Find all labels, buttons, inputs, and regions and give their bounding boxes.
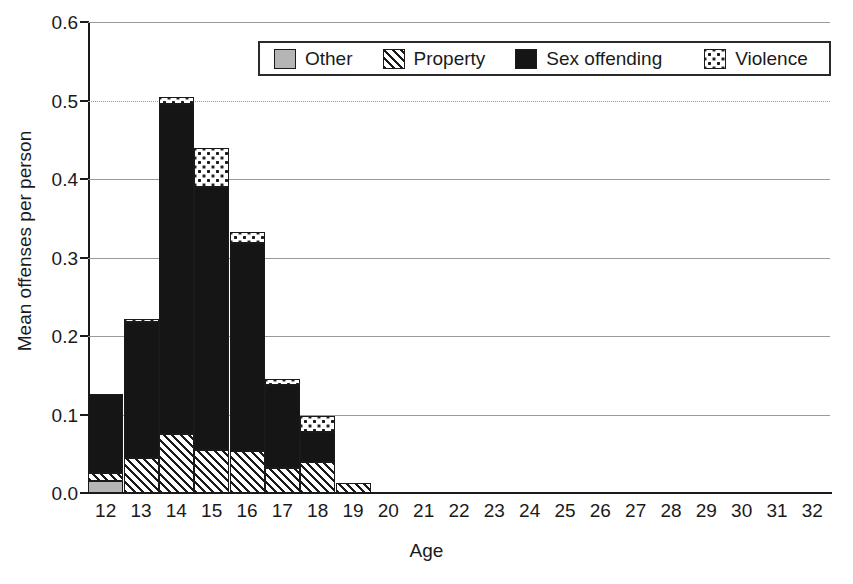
- legend-item-other: Other: [274, 43, 353, 74]
- bar-stack: [300, 416, 335, 493]
- bar-stack: [265, 379, 300, 493]
- bar-segment: [230, 451, 265, 493]
- x-axis-label: Age: [0, 540, 853, 562]
- bar-segment: [300, 416, 335, 432]
- bar-stack: [124, 319, 159, 493]
- x-axis-tick-label: 26: [580, 500, 620, 522]
- x-axis-tick-label: 20: [368, 500, 408, 522]
- y-axis-tick-label: 0.4: [32, 170, 78, 189]
- legend-item-property: Property: [383, 43, 486, 74]
- x-axis-tick-label: 12: [86, 500, 126, 522]
- x-axis-tick-label: 14: [156, 500, 196, 522]
- bar-segment: [194, 148, 229, 187]
- bar-segment: [230, 232, 265, 244]
- x-axis-tick-label: 29: [686, 500, 726, 522]
- x-axis-tick-label: 16: [227, 500, 267, 522]
- legend-item-sex-offending: Sex offending: [515, 43, 662, 74]
- x-axis-tick-label: 19: [333, 500, 373, 522]
- bar-segment: [194, 187, 229, 450]
- bar-segment: [88, 481, 123, 493]
- bar-segment: [265, 385, 300, 468]
- bar-segment: [159, 104, 194, 434]
- x-axis-tick-label: 25: [545, 500, 585, 522]
- legend-swatch-property-icon: [383, 49, 405, 69]
- bar-stack: [336, 483, 371, 493]
- legend-label-violence: Violence: [735, 48, 808, 70]
- bar-segment: [124, 319, 159, 322]
- x-axis-tick-label: 31: [757, 500, 797, 522]
- bar-segment: [88, 473, 123, 481]
- x-axis-tick-label: 32: [792, 500, 832, 522]
- bar-segment: [159, 97, 194, 105]
- x-axis-tick-label: 24: [510, 500, 550, 522]
- x-axis-tick-label: 30: [722, 500, 762, 522]
- bar-segment: [300, 462, 335, 493]
- gridline: [88, 22, 830, 23]
- legend-label-sex-offending: Sex offending: [546, 48, 662, 70]
- chart-legend: Other Property Sex offending Violence: [258, 41, 831, 76]
- bar-segment: [230, 243, 265, 451]
- bar-segment: [124, 322, 159, 458]
- bar-segment: [159, 434, 194, 493]
- gridline: [88, 101, 830, 102]
- legend-label-other: Other: [305, 48, 353, 70]
- x-axis-tick-label: 28: [651, 500, 691, 522]
- x-axis-tick-label: 18: [298, 500, 338, 522]
- y-axis-tick-label: 0.6: [32, 13, 78, 32]
- x-axis-tick-label: 27: [616, 500, 656, 522]
- bar-stack: [88, 394, 123, 493]
- x-axis-tick-label: 22: [439, 500, 479, 522]
- bar-segment: [265, 379, 300, 384]
- bar-segment: [336, 483, 371, 493]
- legend-label-property: Property: [414, 48, 486, 70]
- x-axis-tick-label: 15: [192, 500, 232, 522]
- y-axis-tick-label: 0.3: [32, 248, 78, 267]
- plot-area: [88, 22, 830, 493]
- y-axis-tick-label: 0.5: [32, 91, 78, 110]
- bar-segment: [265, 468, 300, 493]
- bar-segment: [194, 450, 229, 493]
- x-axis-tick-label: 23: [474, 500, 514, 522]
- bar-stack: [230, 232, 265, 493]
- legend-swatch-other-icon: [274, 49, 296, 69]
- x-axis-tick-label: 17: [262, 500, 302, 522]
- y-axis-tick-label: 0.2: [32, 327, 78, 346]
- legend-item-violence: Violence: [704, 43, 808, 74]
- bar-segment: [300, 432, 335, 462]
- bar-segment: [88, 394, 123, 473]
- x-axis-tick-label: 13: [121, 500, 161, 522]
- bar-stack: [159, 97, 194, 493]
- legend-swatch-violence-icon: [704, 49, 726, 69]
- bar-segment: [124, 458, 159, 493]
- y-axis-tick-label: 0.0: [32, 484, 78, 503]
- y-axis-tick-label: 0.1: [32, 405, 78, 424]
- x-axis-tick-label: 21: [404, 500, 444, 522]
- legend-swatch-sex-offending-icon: [515, 49, 537, 69]
- bar-stack: [194, 148, 229, 493]
- stacked-bar-chart: Mean offenses per person 0.00.10.20.30.4…: [0, 0, 853, 584]
